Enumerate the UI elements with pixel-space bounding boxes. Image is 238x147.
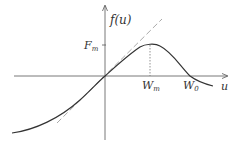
w0-label: W0 [183,79,199,93]
y-axis-label: f(u) [109,13,132,27]
tangent-line [57,19,162,123]
x-axis-label: u [221,80,228,93]
wm-label: Wm [142,79,160,93]
diagram-canvas: f(u) Fm Wm W0 u [0,0,238,147]
fm-label: Fm [83,39,99,53]
